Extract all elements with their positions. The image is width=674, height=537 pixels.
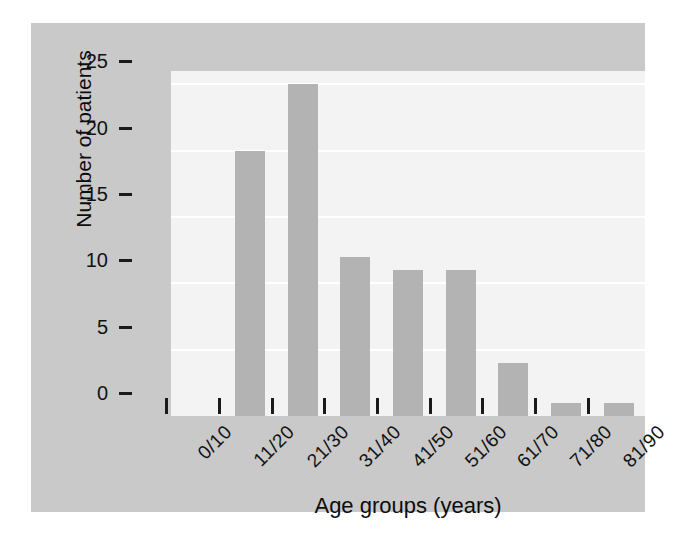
y-axis-tick-label: 20: [48, 118, 108, 138]
y-axis-tick-label: 25: [48, 51, 108, 71]
x-axis-tick-label: 71/80: [566, 421, 617, 472]
bar: [235, 151, 265, 416]
bar: [604, 403, 634, 416]
x-axis-tick: [429, 398, 432, 414]
y-axis-tick: [119, 60, 132, 63]
chart-panel: Number of patients 0510152025 0/1011/202…: [31, 23, 645, 512]
x-axis-tick-label: 11/20: [249, 421, 299, 471]
y-axis-tick: [119, 127, 132, 130]
y-axis-tick-label: 15: [48, 184, 108, 204]
x-axis-tick-label: 61/70: [513, 421, 564, 472]
bar: [446, 270, 476, 416]
y-axis-tick-label: 0: [48, 383, 108, 403]
x-axis-tick-label: 51/60: [460, 421, 511, 472]
y-axis-tick-label: 5: [48, 317, 108, 337]
bar: [288, 84, 318, 416]
bar: [551, 403, 581, 416]
y-axis-tick: [119, 259, 132, 262]
figure: Number of patients 0510152025 0/1011/202…: [0, 0, 674, 537]
x-axis-title: Age groups (years): [171, 493, 645, 519]
x-axis-tick: [165, 398, 168, 414]
x-axis-tick-label: 31/40: [355, 421, 406, 472]
x-axis-tick: [481, 398, 484, 414]
x-axis-tick-label: 0/10: [194, 421, 237, 464]
plot-area: [171, 71, 645, 416]
x-axis-tick: [587, 398, 590, 414]
x-axis-tick-label: 41/50: [408, 421, 459, 472]
bar: [340, 257, 370, 416]
bar: [393, 270, 423, 416]
x-axis-tick-label: 81/90: [618, 421, 669, 472]
y-axis-tick: [119, 326, 132, 329]
y-axis-tick: [119, 193, 132, 196]
bar: [498, 363, 528, 416]
x-axis-tick: [376, 398, 379, 414]
x-axis-tick-label: 21/30: [302, 421, 353, 472]
x-axis-tick: [271, 398, 274, 414]
y-axis-tick-label: 10: [48, 250, 108, 270]
gridline: [171, 83, 645, 85]
x-axis-tick: [323, 398, 326, 414]
y-axis-tick: [119, 392, 132, 395]
x-axis-tick: [218, 398, 221, 414]
x-axis-tick: [534, 398, 537, 414]
